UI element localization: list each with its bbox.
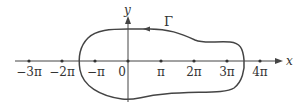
tick-label: π (157, 66, 165, 78)
tick-label: 3π (219, 66, 235, 78)
contour-direction-arrow-icon (143, 27, 150, 32)
tick-label: −π (87, 66, 105, 78)
tick-label: 2π (186, 66, 202, 78)
contour-label: Γ (164, 15, 173, 28)
diagram-canvas (0, 0, 302, 108)
y-axis-label: y (124, 4, 131, 16)
x-axis-arrow-icon (275, 58, 283, 64)
y-axis-arrow-icon (125, 16, 131, 24)
contour-diagram: x y Γ −3π −2π −π 0 π 2π 3π 4π (0, 0, 302, 108)
tick-label: 4π (252, 66, 268, 78)
x-axis-label: x (286, 55, 293, 67)
tick-label: −3π (16, 66, 42, 78)
tick-label: 0 (118, 66, 126, 78)
tick-label: −2π (49, 66, 75, 78)
